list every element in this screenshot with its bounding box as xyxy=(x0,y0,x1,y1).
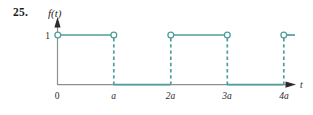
x-tick-label-0: 0 xyxy=(55,91,60,101)
square-wave-plot: f(t) t 1 0 a 2a 3a 4a xyxy=(0,0,313,115)
y-tick-label-1: 1 xyxy=(45,31,50,41)
x-tick-label-4a: 4a xyxy=(279,91,289,101)
x-tick-label-3a: 3a xyxy=(221,91,232,101)
open-circle-at-3a xyxy=(224,32,230,38)
open-circle-at-a xyxy=(111,32,117,38)
y-axis-label: f(t) xyxy=(48,7,62,20)
axes-group xyxy=(54,17,296,88)
x-axis-arrowhead xyxy=(286,81,297,87)
function-curve-group xyxy=(58,35,296,85)
open-circle-at-2a xyxy=(168,32,174,38)
figure-container: 25. xyxy=(0,0,313,115)
open-circle-at-0 xyxy=(55,32,61,38)
x-tick-label-a: a xyxy=(111,91,116,101)
x-tick-label-2a: 2a xyxy=(166,91,176,101)
x-axis-label: t xyxy=(300,80,303,90)
open-circle-at-4a xyxy=(281,32,287,38)
